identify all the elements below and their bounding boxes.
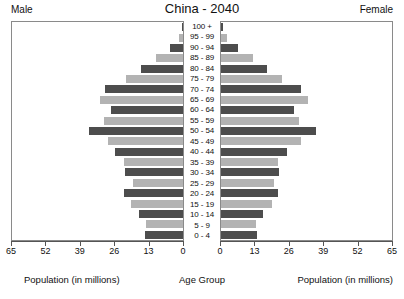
male-bar xyxy=(141,65,183,73)
age-group-label: 95 - 99 xyxy=(190,32,214,41)
bar-row xyxy=(221,188,392,198)
male-bar xyxy=(125,168,183,176)
male-bar xyxy=(108,137,183,145)
female-bar xyxy=(221,85,301,93)
male-bar-rows xyxy=(12,22,183,240)
age-group-row: 70 - 74 xyxy=(184,84,220,94)
bar-row xyxy=(12,198,183,208)
female-bar xyxy=(221,210,263,218)
male-bar xyxy=(182,23,183,31)
bar-row xyxy=(12,178,183,188)
bar-row xyxy=(221,230,392,240)
female-bar-rows xyxy=(221,22,392,240)
axis-tick-label: 13 xyxy=(144,246,154,256)
bar-row xyxy=(221,209,392,219)
male-bar xyxy=(111,106,183,114)
male-x-axis: 65523926130 xyxy=(11,241,184,257)
bar-row xyxy=(12,126,183,136)
bar-row xyxy=(12,43,183,53)
male-bar xyxy=(133,179,184,187)
age-group-label: 55 - 59 xyxy=(190,116,214,125)
bar-row xyxy=(12,105,183,115)
axis-tick-label: 26 xyxy=(284,246,294,256)
bar-row xyxy=(221,147,392,157)
axis-tick-label: 65 xyxy=(387,246,397,256)
age-group-row: 30 - 34 xyxy=(184,168,220,178)
bar-row xyxy=(12,230,183,240)
age-group-row: 40 - 44 xyxy=(184,147,220,157)
axis-tick-label: 65 xyxy=(6,246,16,256)
age-group-label: 70 - 74 xyxy=(190,85,214,94)
age-group-row: 95 - 99 xyxy=(184,31,220,41)
bar-row xyxy=(221,167,392,177)
male-bar xyxy=(179,34,183,42)
bar-row xyxy=(12,84,183,94)
bar-row xyxy=(221,126,392,136)
age-group-row: 75 - 79 xyxy=(184,73,220,83)
age-group-label: 0 - 4 xyxy=(194,231,210,240)
age-group-label: 25 - 29 xyxy=(190,179,214,188)
bar-row xyxy=(221,136,392,146)
male-bar xyxy=(145,231,183,239)
age-group-label: 30 - 34 xyxy=(190,168,214,177)
bar-row xyxy=(12,115,183,125)
bar-row xyxy=(12,209,183,219)
age-group-row: 20 - 24 xyxy=(184,189,220,199)
female-bar xyxy=(221,34,227,42)
axis-tick-label: 13 xyxy=(249,246,259,256)
age-group-row: 25 - 29 xyxy=(184,178,220,188)
bar-row xyxy=(221,157,392,167)
axis-tick-label: 52 xyxy=(40,246,50,256)
age-group-row: 45 - 49 xyxy=(184,136,220,146)
female-bar xyxy=(221,75,282,83)
axis-tick-label: 39 xyxy=(318,246,328,256)
age-group-label: 85 - 89 xyxy=(190,53,214,62)
female-bar xyxy=(221,117,299,125)
axis-tick-label: 52 xyxy=(353,246,363,256)
age-group-label: 45 - 49 xyxy=(190,137,214,146)
female-bar xyxy=(221,96,308,104)
female-bar xyxy=(221,137,301,145)
axis-tick-label: 39 xyxy=(75,246,85,256)
female-bar xyxy=(221,158,278,166)
female-bar xyxy=(221,127,316,135)
female-axis-line xyxy=(220,241,393,242)
bar-row xyxy=(221,84,392,94)
male-bar xyxy=(126,75,183,83)
age-group-row: 35 - 39 xyxy=(184,157,220,167)
bar-row xyxy=(221,115,392,125)
age-group-axis: 100 +95 - 9990 - 9485 - 8980 - 8475 - 79… xyxy=(184,21,220,241)
age-group-label: 90 - 94 xyxy=(190,43,214,52)
age-group-row: 60 - 64 xyxy=(184,105,220,115)
male-bar xyxy=(139,210,183,218)
female-bar xyxy=(221,65,267,73)
female-bar xyxy=(221,168,279,176)
bar-row xyxy=(12,22,183,32)
bar-row xyxy=(12,167,183,177)
bar-row xyxy=(12,147,183,157)
age-group-label: 100 + xyxy=(192,22,212,31)
age-group-row: 10 - 14 xyxy=(184,209,220,219)
bar-row xyxy=(221,178,392,188)
bar-row xyxy=(221,105,392,115)
age-group-row: 5 - 9 xyxy=(184,220,220,230)
male-bar xyxy=(124,158,183,166)
age-group-label: 60 - 64 xyxy=(190,105,214,114)
female-side-label: Female xyxy=(360,4,393,15)
female-bar xyxy=(221,44,238,52)
male-bar xyxy=(124,189,183,197)
age-group-row: 0 - 4 xyxy=(184,230,220,240)
female-bar xyxy=(221,54,253,62)
male-bar xyxy=(105,85,183,93)
age-group-row: 80 - 84 xyxy=(184,63,220,73)
bar-row xyxy=(12,188,183,198)
population-pyramid-chart: Male China - 2040 Female 100 +95 - 9990 … xyxy=(0,0,404,299)
bar-row xyxy=(221,198,392,208)
female-bar xyxy=(221,189,278,197)
age-group-label: 75 - 79 xyxy=(190,74,214,83)
chart-title: China - 2040 xyxy=(0,1,404,16)
bar-row xyxy=(12,95,183,105)
male-plot-panel xyxy=(11,21,184,241)
bar-row xyxy=(12,219,183,229)
bar-row xyxy=(12,136,183,146)
